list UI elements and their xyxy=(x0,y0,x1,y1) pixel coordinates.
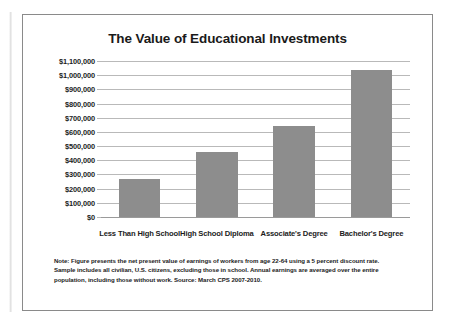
bar-2 xyxy=(273,126,314,217)
x-axis-category-label: High School Diploma xyxy=(180,229,254,238)
bar-3 xyxy=(351,70,392,217)
y-axis-tick-label: $1,000,000 xyxy=(59,71,95,80)
y-axis-tick-label: $900,000 xyxy=(65,85,95,94)
y-axis-tick-label: $400,000 xyxy=(65,156,95,165)
scan-edge-artifact xyxy=(9,12,12,312)
y-axis-tick-label: $500,000 xyxy=(65,142,95,151)
bar-1 xyxy=(196,152,237,217)
y-axis-tick-label: $600,000 xyxy=(65,127,95,136)
bars-layer xyxy=(101,61,410,217)
y-axis-tick-label: $800,000 xyxy=(65,99,95,108)
gridline xyxy=(101,217,410,218)
figure-footnote: Note: Figure presents the net present va… xyxy=(54,256,402,284)
chart-plot-area: $0$100,000$200,000$300,000$400,000$500,0… xyxy=(101,61,410,217)
y-axis-tick-label: $700,000 xyxy=(65,113,95,122)
y-axis-tick-label: $100,000 xyxy=(65,198,95,207)
x-axis-category-label: Associate's Degree xyxy=(261,229,328,238)
figure-page: The Value of Educational Investments $0$… xyxy=(22,14,433,311)
bar-0 xyxy=(119,179,160,217)
y-axis-tick-label: $1,100,000 xyxy=(59,57,95,66)
x-axis-category-label: Bachelor's Degree xyxy=(339,229,403,238)
y-axis-tick-label: $200,000 xyxy=(65,184,95,193)
y-axis-tick-label: $300,000 xyxy=(65,170,95,179)
x-axis-category-label: Less Than High School xyxy=(99,229,180,238)
y-axis-tick-label: $0 xyxy=(87,213,95,222)
y-axis-tick-mark xyxy=(97,217,101,218)
